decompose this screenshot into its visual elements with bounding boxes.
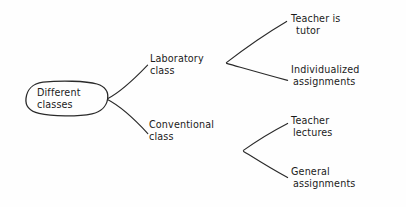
teacher-lectures-label-line2: lectures bbox=[293, 127, 333, 138]
individualized-assignments-label-line2: assignments bbox=[293, 76, 355, 87]
conventional-class-label-line2: class bbox=[149, 131, 174, 142]
teacher-is-tutor-label: Teacher is tutor bbox=[290, 13, 369, 36]
laboratory-class-label-line2: class bbox=[150, 65, 175, 76]
edge-conventional-to-teacher-lectures bbox=[243, 123, 287, 150]
conventional-class-label-line1: Conventional bbox=[149, 119, 214, 130]
node-general-assignments[interactable]: General assignments bbox=[291, 166, 378, 189]
diagram-canvas: Different classes Laboratory class Conve… bbox=[0, 0, 406, 207]
teacher-lectures-label: Teacher lectures bbox=[290, 115, 358, 138]
general-assignments-label: General assignments bbox=[291, 166, 378, 189]
edge-laboratory-to-teacher-tutor bbox=[226, 21, 286, 62]
individualized-assignments-label: Individualized assignments bbox=[291, 64, 388, 87]
conventional-class-label: Conventional class bbox=[149, 119, 243, 142]
laboratory-class-label-line1: Laboratory bbox=[150, 53, 204, 64]
node-root[interactable]: Different classes bbox=[26, 81, 109, 116]
edge-group bbox=[108, 21, 288, 177]
general-assignments-label-line2: assignments bbox=[293, 178, 355, 189]
root-label-line2: classes bbox=[37, 99, 73, 110]
edge-root-to-laboratory bbox=[108, 65, 148, 99]
teacher-is-tutor-label-line2: tutor bbox=[296, 25, 320, 36]
laboratory-class-label: Laboratory class bbox=[150, 53, 233, 76]
edge-root-to-conventional bbox=[108, 100, 148, 134]
node-teacher-is-tutor[interactable]: Teacher is tutor bbox=[290, 13, 369, 36]
node-conventional-class[interactable]: Conventional class bbox=[149, 119, 243, 142]
individualized-assignments-label-line1: Individualized bbox=[291, 64, 360, 75]
edge-conventional-to-general bbox=[244, 151, 288, 177]
tree-diagram: Different classes Laboratory class Conve… bbox=[0, 0, 406, 207]
node-individualized-assignments[interactable]: Individualized assignments bbox=[291, 64, 388, 87]
root-node-label: Different classes bbox=[37, 87, 109, 110]
teacher-is-tutor-label-line1: Teacher is bbox=[290, 13, 340, 24]
node-laboratory-class[interactable]: Laboratory class bbox=[150, 53, 233, 76]
node-teacher-lectures[interactable]: Teacher lectures bbox=[290, 115, 358, 138]
general-assignments-label-line1: General bbox=[291, 166, 330, 177]
root-label-line1: Different bbox=[37, 87, 81, 98]
edge-laboratory-to-individualized bbox=[227, 63, 288, 80]
teacher-lectures-label-line1: Teacher bbox=[290, 115, 329, 126]
